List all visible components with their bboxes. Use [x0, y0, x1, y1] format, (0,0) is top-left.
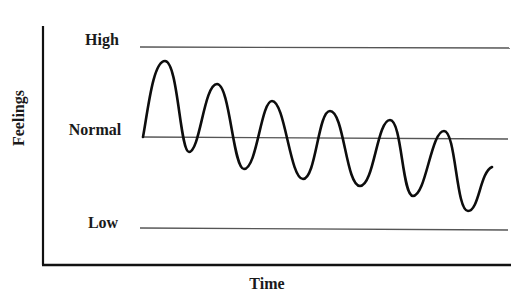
normal-label: Normal: [69, 121, 122, 138]
y-axis-title: Feelings: [10, 90, 28, 146]
low-reference-line: [140, 228, 508, 230]
low-label: Low: [88, 214, 119, 231]
feelings-chart: High Normal Low Feelings Time: [0, 0, 532, 306]
high-reference-line: [140, 47, 510, 48]
high-label: High: [85, 31, 119, 49]
x-axis-title: Time: [249, 275, 284, 292]
feelings-curve: [143, 61, 492, 211]
